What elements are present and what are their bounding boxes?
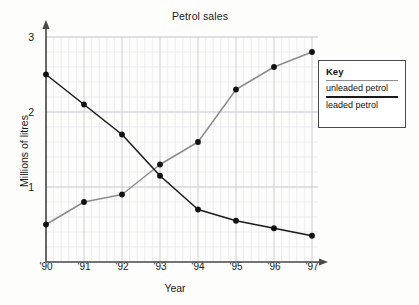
legend-swatch-unleaded (326, 80, 398, 81)
legend-title: Key (326, 66, 399, 77)
legend-label-unleaded: unleaded petrol (326, 83, 399, 93)
chart-figure: Petrol sales Millions of litres Year 1 2… (0, 0, 419, 305)
plot-area (0, 0, 419, 305)
legend-label-leaded: leaded petrol (326, 100, 399, 110)
legend-key-box: Key unleaded petrol leaded petrol (318, 60, 406, 128)
axis-lines (42, 20, 328, 266)
legend-swatch-leaded (326, 96, 398, 98)
